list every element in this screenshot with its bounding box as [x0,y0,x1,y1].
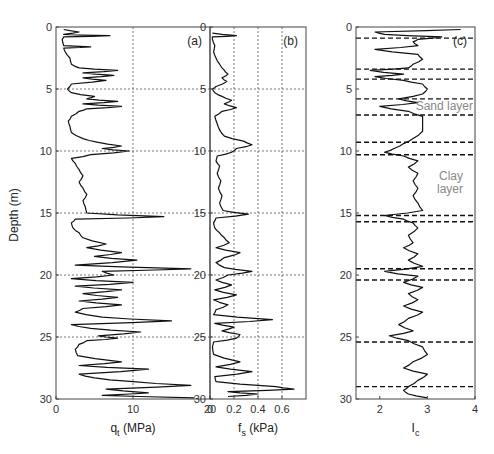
y-tick-label: 0 [346,21,352,33]
y-tick-label: 30 [340,393,352,405]
cpt-profile-figure: Depth (m) 01020051015202530(a)qt (MPa)00… [0,0,494,454]
layer-annotation: Sand layer [416,99,473,113]
y-tick-label: 20 [194,269,206,281]
panel-label: (a) [187,34,202,48]
y-tick-label: 30 [194,393,206,405]
panel-a: 01020051015202530(a)qt (MPa) [40,21,216,438]
x-tick-label: 0 [207,403,213,415]
panel-label: (c) [453,34,467,48]
x-tick-label: 0.2 [226,403,241,415]
x-tick-label: 2 [377,403,383,415]
y-tick-label: 0 [46,21,52,33]
y-tick-label: 10 [40,145,52,157]
y-tick-label: 25 [340,331,352,343]
y-tick-label: 5 [46,83,52,95]
panel-c: 234051015202530(c)IcSand layerClaylayer [340,21,478,438]
y-tick-label: 20 [340,269,352,281]
y-tick-label: 10 [194,145,206,157]
x-tick-label: 0 [53,403,59,415]
y-tick-label: 20 [40,269,52,281]
x-tick-label: 3 [424,403,430,415]
y-tick-label: 0 [200,21,206,33]
x-axis-label: fs (kPa) [238,421,278,438]
y-tick-label: 25 [194,331,206,343]
x-tick-label: 10 [127,403,139,415]
y-tick-label: 15 [340,207,352,219]
layer-annotation: Clay [439,169,463,183]
y-tick-label: 15 [194,207,206,219]
depth-axis-label: Depth (m) [7,188,21,241]
profile-trace-qt [62,30,194,398]
panel-label: (b) [283,34,298,48]
y-tick-label: 10 [340,145,352,157]
x-tick-label: 4 [472,403,478,415]
y-tick-label: 25 [40,331,52,343]
x-axis-label: qt (MPa) [110,421,155,438]
y-tick-label: 5 [200,83,206,95]
panels: 01020051015202530(a)qt (MPa)00.20.40.605… [40,21,478,438]
layer-annotation: layer [437,182,463,196]
x-axis-label: Ic [412,421,420,438]
x-tick-label: 0.6 [274,403,289,415]
panel-b: 00.20.40.6051015202530(b)fs (kPa) [194,21,306,438]
y-tick-label: 5 [346,83,352,95]
y-tick-label: 30 [40,393,52,405]
y-tick-label: 15 [40,207,52,219]
x-tick-label: 0.4 [250,403,265,415]
